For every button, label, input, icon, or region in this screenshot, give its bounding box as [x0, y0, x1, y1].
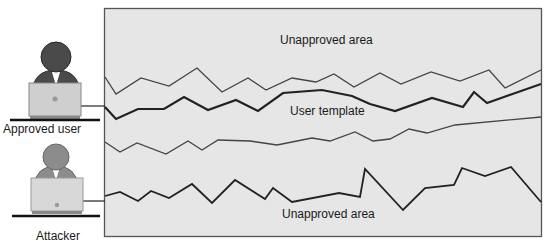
template-label: User template — [290, 104, 365, 118]
approved-user-label: Approved user — [3, 122, 81, 136]
approved-user-icon — [10, 42, 100, 120]
bottom-area-label: Unapproved area — [282, 207, 375, 221]
attacker-label: Attacker — [36, 229, 80, 243]
top-area-label: Unapproved area — [280, 33, 373, 47]
attacker-icon — [12, 144, 100, 216]
diagram-canvas — [0, 0, 551, 250]
